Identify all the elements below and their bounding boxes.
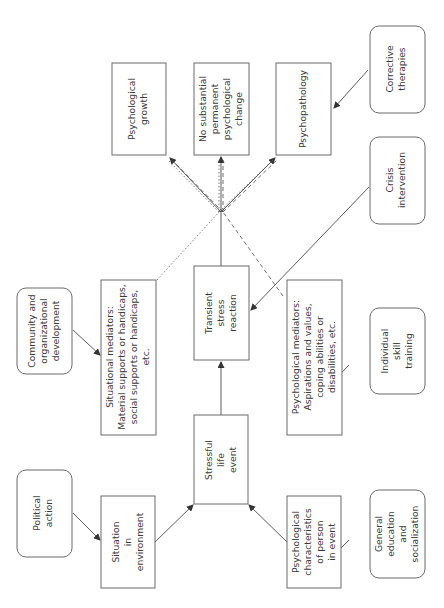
label-line: stress — [215, 299, 226, 326]
label-line: Stressful — [203, 440, 214, 480]
label-line: education — [385, 511, 396, 557]
label-line: Psychological mediators: — [290, 300, 301, 414]
label-line: social supports or handicaps, — [128, 290, 139, 424]
node-psych-characteristics: Psychological characteristics of person … — [287, 496, 341, 588]
edge-situation-to-event — [155, 505, 193, 542]
node-transient-stress: Transient stress reaction — [194, 266, 249, 360]
node-political-action: Political action — [17, 470, 72, 557]
label-line: therapies — [396, 47, 407, 91]
label-line: socialization — [409, 505, 420, 562]
label-line: General — [373, 516, 384, 552]
label-line: Aspirations and values, — [302, 303, 313, 410]
label-line: etc. — [140, 348, 151, 365]
diagram-canvas: Political action Situation in environmen… — [0, 0, 444, 608]
label-line: Psychopathology — [297, 69, 308, 148]
label-line: Crisis — [384, 167, 395, 192]
label-line: of person — [314, 520, 325, 563]
label-line: Individual — [379, 329, 390, 374]
label-line: skill — [391, 342, 402, 360]
label-line: event — [227, 447, 238, 474]
label-line: Psychological — [126, 78, 137, 140]
dotted-to-psychopathology — [219, 160, 273, 212]
label-line: Situation — [110, 521, 121, 562]
node-general-education: General education and socialization — [370, 490, 425, 578]
label-line: life — [215, 453, 226, 467]
edge-corrective-to-psychopathology — [334, 70, 368, 108]
label-line: environment — [134, 512, 145, 571]
label-line: Political — [31, 495, 42, 530]
label-line: and — [397, 525, 408, 542]
label-line: training — [403, 333, 414, 369]
label-line: disabilities, etc. — [326, 321, 337, 393]
node-individual-skill: Individual skill training — [370, 308, 425, 394]
edge-characteristics-to-event — [249, 505, 287, 542]
label-line: characteristics — [302, 508, 313, 576]
label-line: organizational — [38, 298, 49, 363]
node-community-development: Community and organizational development — [17, 288, 72, 374]
label-line: in — [122, 538, 133, 547]
label-line: psychological — [221, 78, 232, 140]
label-line: Transient — [203, 292, 214, 335]
label-line: permanent — [209, 83, 220, 134]
label-line: growth — [138, 93, 149, 125]
label-line: change — [233, 92, 244, 126]
node-psychological-mediators: Psychological mediators: Aspirations and… — [287, 280, 342, 435]
label-line: development — [50, 300, 61, 361]
label-line: intervention — [396, 152, 407, 208]
label-line: Situational mediators: — [104, 306, 115, 408]
label-line: coping abilities or — [314, 316, 325, 398]
node-crisis-intervention: Crisis intervention — [370, 137, 425, 224]
edge-community-to-situational — [73, 330, 100, 355]
label-line: Material supports or handicaps, — [116, 284, 127, 430]
node-corrective-therapies: Corrective therapies — [370, 26, 425, 113]
label-line: Community and — [26, 294, 37, 367]
node-situation-in-environment: Situation in environment — [101, 496, 155, 588]
dashed-to-psychopathology — [223, 160, 277, 212]
label-line: No substantial — [197, 76, 208, 142]
label-line: Psychological — [290, 511, 301, 573]
node-psych-growth: Psychological growth — [112, 63, 166, 155]
label-line: reaction — [227, 294, 238, 332]
node-psychopathology: Psychopathology — [276, 63, 331, 155]
edge-hub-to-psychopathology — [221, 158, 275, 212]
label-line: action — [43, 499, 54, 527]
node-situational-mediators: Situational mediators: Material supports… — [101, 280, 156, 435]
label-line: Corrective — [384, 45, 395, 93]
node-stressful-life-event: Stressful life event — [194, 415, 248, 504]
label-line: in event — [326, 523, 337, 561]
dotted-to-growth — [168, 160, 219, 212]
node-no-change: No substantial permanent psychological c… — [194, 63, 249, 155]
edge-political-to-situation — [73, 513, 100, 540]
